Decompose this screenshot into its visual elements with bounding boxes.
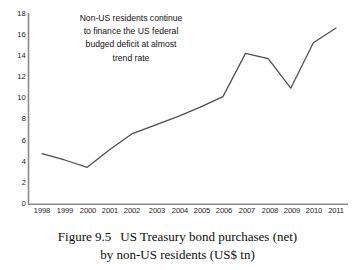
x-axis-tick-labels: 1998 1999 2000 2001 2002 2003 2004 2005 …: [0, 206, 355, 220]
annotation-line-4: trend rate: [57, 52, 205, 65]
caption-line-1: US Treasury bond purchases (net): [120, 229, 297, 244]
y-tick-12: 12: [8, 73, 26, 81]
annotation-line-2: to finance the US federal: [57, 25, 205, 38]
figure-container: 18 16 14 12 10 8 6 4 2 0 1998 1999 2000 …: [0, 0, 355, 270]
caption-first-line: Figure 9.5US Treasury bond purchases (ne…: [0, 228, 355, 246]
y-tick-14: 14: [8, 52, 26, 60]
annotation-line-1: Non-US residents continue: [57, 12, 205, 25]
y-tick-2: 2: [8, 179, 26, 187]
y-tick-8: 8: [8, 115, 26, 123]
figure-number: Figure 9.5: [58, 229, 111, 244]
caption-line-2: by non-US residents (US$ tn): [0, 246, 355, 264]
x-tick-2002: 2002: [119, 206, 145, 216]
chart-annotation-note: Non-US residents continue to finance the…: [57, 12, 205, 65]
y-tick-16: 16: [8, 31, 26, 39]
chart-plot-area: 18 16 14 12 10 8 6 4 2 0 1998 1999 2000 …: [0, 0, 355, 215]
annotation-line-3: budged deficit at almost: [57, 38, 205, 51]
y-tick-10: 10: [8, 94, 26, 102]
y-axis-tick-labels: 18 16 14 12 10 8 6 4 2 0: [6, 0, 26, 215]
x-tick-2011: 2011: [323, 206, 349, 216]
y-tick-18: 18: [8, 10, 26, 18]
y-tick-6: 6: [8, 137, 26, 145]
figure-caption: Figure 9.5US Treasury bond purchases (ne…: [0, 228, 355, 264]
y-tick-4: 4: [8, 158, 26, 166]
